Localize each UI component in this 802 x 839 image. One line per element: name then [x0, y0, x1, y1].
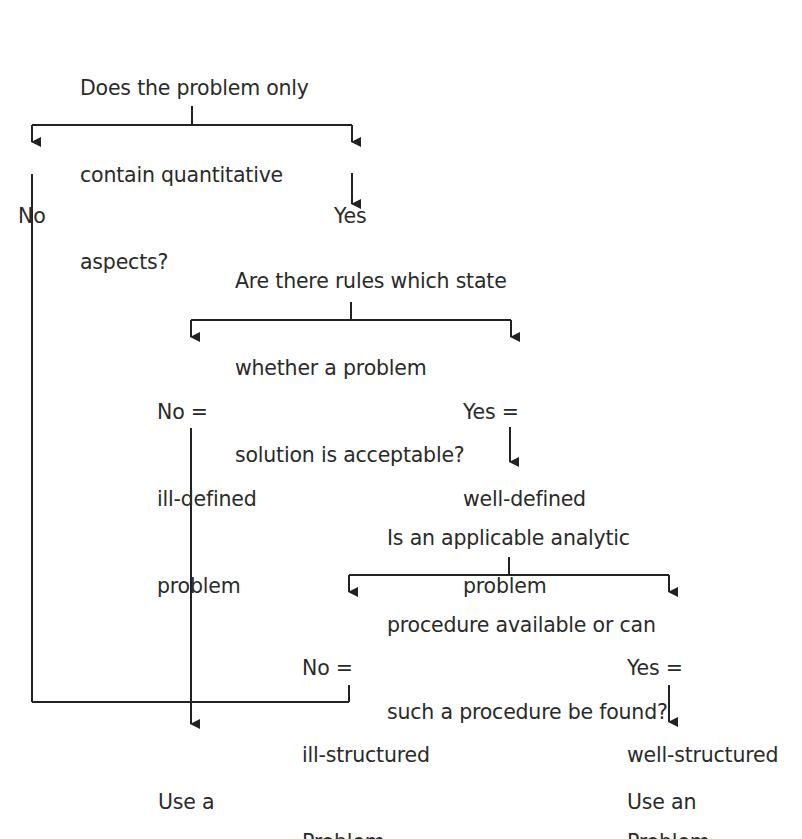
q2-no-line-3: problem: [157, 572, 256, 601]
q1-line-1: Does the problem only: [80, 74, 309, 103]
outcome-analytic-procedure: Use an analytic procedure: [627, 730, 729, 839]
q3-line-1: Is an applicable analytic: [387, 524, 668, 553]
q1-no-text: No: [18, 202, 45, 231]
heuristic-line-1: Use a: [158, 788, 260, 817]
outcome-heuristic-procedure: Use a heuristic procedure: [158, 730, 260, 839]
q2-no-line-1: No =: [157, 398, 256, 427]
q2-yes-line-1: Yes =: [463, 398, 586, 427]
ill-structured-problem-label: No = ill-structured Problem: [302, 596, 430, 839]
q1-line-2: contain quantitative: [80, 161, 309, 190]
analytic-line-1: Use an: [627, 788, 729, 817]
flowchart-canvas: Does the problem only contain quantitati…: [0, 0, 802, 839]
q3-no-line-2: ill-structured: [302, 741, 430, 770]
q1-no-label: No: [18, 144, 45, 289]
q2-no-line-2: ill-defined: [157, 485, 256, 514]
q3-no-line-1: No =: [302, 654, 430, 683]
q2-line-1: Are there rules which state: [235, 267, 507, 296]
ill-defined-problem-label: No = ill-defined problem: [157, 340, 256, 659]
q3-yes-line-1: Yes =: [627, 654, 778, 683]
q3-no-line-3: Problem: [302, 828, 430, 839]
